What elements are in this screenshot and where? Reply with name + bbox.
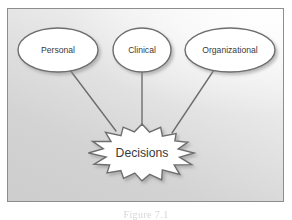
node-personal[interactable]: Personal [18,28,98,72]
node-label-personal: Personal [41,45,75,55]
figure-root: Decisions Personal Clinical Organization… [0,0,292,220]
node-label-clinical: Clinical [128,45,156,55]
figure-caption: Figure 7.1 [0,209,292,220]
node-organizational[interactable]: Organizational [185,28,275,72]
node-label-organizational: Organizational [202,45,258,55]
connector-personal-to-decisions [70,70,116,131]
node-decisions[interactable]: Decisions [88,124,194,181]
connector-organizational-to-decisions [172,70,214,133]
node-clinical[interactable]: Clinical [113,28,171,72]
concept-map-svg: Decisions Personal Clinical Organization… [0,0,292,220]
node-label-decisions: Decisions [116,146,169,160]
